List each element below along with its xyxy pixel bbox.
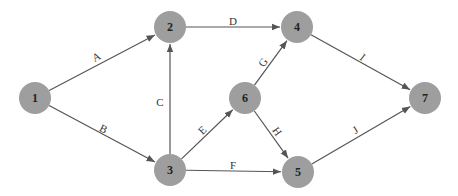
node-label: 3 — [167, 163, 173, 177]
edge-label-c: C — [156, 96, 163, 108]
node-label: 7 — [422, 91, 428, 105]
edge-a — [49, 35, 155, 91]
node-7: 7 — [409, 82, 441, 114]
node-6: 6 — [229, 82, 261, 114]
node-1: 1 — [19, 82, 51, 114]
edge-label-d: D — [229, 15, 237, 27]
edge-label-j: J — [350, 123, 361, 136]
edge-h — [254, 111, 288, 158]
edge-label-f: F — [230, 159, 236, 171]
node-2: 2 — [154, 11, 186, 43]
edge-label-i: I — [358, 51, 368, 63]
edge-label-b: B — [98, 122, 110, 136]
network-diagram: ABCDEFGHIJ 1234567 — [0, 0, 458, 196]
node-4: 4 — [281, 11, 313, 43]
node-label: 5 — [295, 165, 301, 179]
node-label: 2 — [167, 20, 173, 34]
node-label: 1 — [32, 91, 38, 105]
edge-label-a: A — [90, 50, 103, 64]
edge-e — [182, 110, 233, 159]
node-label: 4 — [294, 20, 300, 34]
node-label: 6 — [242, 91, 248, 105]
edge-j — [312, 107, 410, 164]
node-5: 5 — [282, 156, 314, 188]
node-3: 3 — [154, 154, 186, 186]
edge-labels-group: ABCDEFGHIJ — [90, 15, 368, 171]
